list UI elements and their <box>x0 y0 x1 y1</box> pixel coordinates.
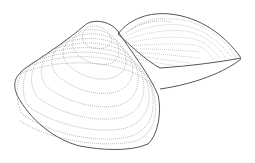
clam-shell-drawing <box>0 0 255 163</box>
illustration-canvas <box>0 0 255 163</box>
right-valve <box>118 14 241 89</box>
left-valve <box>15 21 160 149</box>
